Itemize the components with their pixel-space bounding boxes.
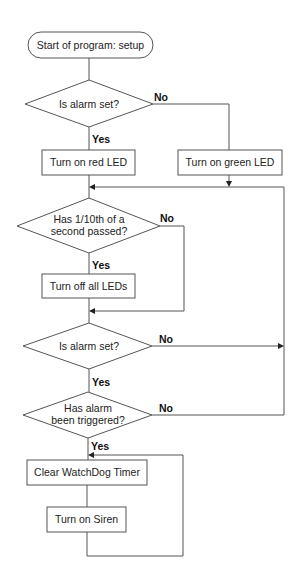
process-red-led: Turn on red LED	[42, 150, 135, 175]
edge-label-alarm2-no: No	[159, 333, 173, 345]
edge-label-alarm1-no: No	[154, 91, 168, 103]
decision-alarm-set-1-label: Is alarm set?	[59, 98, 119, 110]
decision-triggered-line2: been triggered?	[51, 414, 125, 426]
arrow-right-icon	[278, 343, 284, 349]
arrow-left-icon	[89, 308, 95, 314]
decision-tenth-second: Has 1/10th of a second passed?	[17, 198, 160, 253]
process-leds-off-label: Turn off all LEDs	[50, 280, 128, 292]
decision-alarm-set-1: Is alarm set?	[25, 80, 153, 127]
start-terminal: Start of program: setup	[28, 32, 153, 58]
decision-alarm-set-2: Is alarm set?	[23, 323, 152, 369]
edge-label-alarm2-yes: Yes	[92, 376, 110, 388]
decision-tenth-second-line1: Has 1/10th of a	[53, 213, 124, 225]
flowchart-canvas: Start of program: setup Is alarm set? No…	[0, 0, 299, 583]
arrow-left-icon	[89, 184, 95, 190]
decision-triggered-line1: Has alarm	[64, 402, 112, 414]
process-red-led-label: Turn on red LED	[50, 156, 128, 168]
decision-alarm-set-2-label: Is alarm set?	[59, 340, 119, 352]
process-siren-on: Turn on Siren	[47, 507, 126, 532]
process-green-led-label: Turn on green LED	[186, 156, 275, 168]
edge-alarm1-no	[153, 104, 229, 150]
decision-tenth-second-line2: second passed?	[51, 225, 128, 237]
decision-triggered: Has alarm been triggered?	[23, 392, 152, 438]
edge-label-triggered-no: No	[159, 402, 173, 414]
edge-label-tenth-no: No	[160, 212, 174, 224]
process-siren-on-label: Turn on Siren	[55, 513, 118, 525]
edge-label-alarm1-yes: Yes	[92, 133, 110, 145]
process-clear-watchdog: Clear WatchDog Timer	[27, 460, 147, 485]
process-leds-off: Turn off all LEDs	[42, 274, 135, 298]
edge-label-tenth-yes: Yes	[92, 259, 110, 271]
start-terminal-label: Start of program: setup	[37, 39, 145, 51]
process-clear-watchdog-label: Clear WatchDog Timer	[34, 466, 140, 478]
process-green-led: Turn on green LED	[178, 150, 282, 175]
arrow-down-icon	[226, 181, 232, 187]
edge-label-triggered-yes: Yes	[91, 440, 109, 452]
arrow-left-icon	[88, 452, 94, 458]
